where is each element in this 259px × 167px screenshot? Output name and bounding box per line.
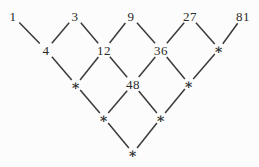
number-node-36: 36 xyxy=(154,44,168,57)
edge-line xyxy=(80,90,100,113)
number-node-4: 4 xyxy=(43,44,50,57)
number-node-9: 9 xyxy=(128,10,135,23)
asterisk-node: ∗ xyxy=(156,111,166,125)
number-node-27: 27 xyxy=(183,10,197,23)
number-node-1: 1 xyxy=(10,10,17,23)
edge-line xyxy=(81,23,98,43)
number-lattice-diagram: 139278141236∗∗48∗∗∗∗ xyxy=(0,0,259,167)
edge-line xyxy=(19,22,39,43)
asterisk-node: ∗ xyxy=(71,78,81,92)
edge-line xyxy=(110,57,127,77)
edge-line xyxy=(167,57,185,79)
edge-line xyxy=(108,123,129,148)
number-node-48: 48 xyxy=(126,78,140,91)
edge-line xyxy=(139,91,157,113)
edge-line xyxy=(52,23,69,43)
asterisk-node: ∗ xyxy=(184,77,194,91)
edge-line xyxy=(167,23,184,43)
edge-line xyxy=(52,57,72,80)
edge-line xyxy=(137,123,157,148)
edge-line xyxy=(193,54,215,79)
asterisk-node: ∗ xyxy=(99,111,109,125)
edge-line xyxy=(108,91,127,113)
number-node-3: 3 xyxy=(72,10,79,23)
edge-line xyxy=(196,23,215,44)
edge-line xyxy=(137,23,155,44)
edge-line xyxy=(110,23,126,43)
asterisk-node: ∗ xyxy=(214,42,224,56)
number-node-12: 12 xyxy=(97,44,111,57)
edge-line xyxy=(139,57,156,77)
edge-line xyxy=(165,89,185,113)
number-node-81: 81 xyxy=(236,10,250,23)
edge-line xyxy=(223,23,238,43)
asterisk-node: ∗ xyxy=(128,146,138,160)
edge-line xyxy=(80,57,98,80)
